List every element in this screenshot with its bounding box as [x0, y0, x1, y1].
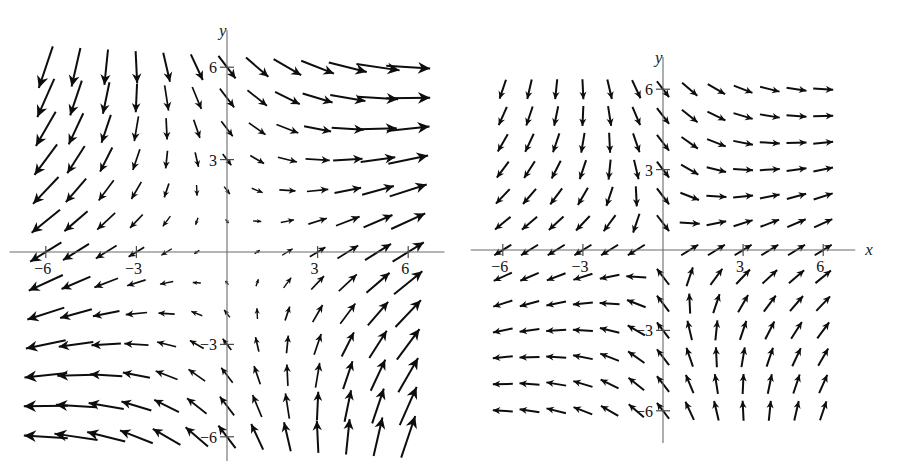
vector-arrow-head	[628, 351, 636, 358]
vector-arrow-head	[690, 141, 698, 148]
left-y-axis-label: y	[217, 21, 227, 40]
x-tick-label: −6	[34, 260, 51, 277]
vector-arrow-head	[347, 303, 355, 312]
x-tick-label: −3	[125, 260, 142, 277]
direction-field-left-panel: x y −6−33663−3−6	[0, 0, 453, 463]
x-tick-label: 3	[736, 258, 744, 275]
x-tick-label: −3	[571, 258, 588, 275]
y-tick-label: −6	[200, 429, 217, 446]
y-tick-label: −3	[636, 322, 653, 339]
direction-fields-figure: x y −6−33663−3−6 x y −6−33663−3−6	[0, 0, 906, 463]
vector-arrow-head	[99, 191, 107, 200]
y-tick-label: 3	[645, 162, 653, 179]
vector-arrow-head	[409, 329, 420, 341]
vector-arrow-head	[377, 331, 386, 342]
vector-arrow-head	[257, 127, 265, 134]
left-panel-canvas: x y −6−33663−3−6	[0, 0, 453, 463]
x-tick-label: 6	[816, 258, 824, 275]
x-tick-label: −6	[491, 258, 508, 275]
vector-arrow-head	[412, 242, 424, 252]
right-axes	[471, 57, 855, 443]
right-panel-canvas: x y −6−33663−3−6	[453, 0, 906, 463]
right-y-axis-label: y	[653, 48, 663, 67]
y-tick-label: −6	[636, 403, 653, 420]
vector-arrow-head	[188, 369, 196, 376]
direction-field-right-panel: x y −6−33663−3−6	[453, 0, 906, 463]
y-tick-label: 3	[209, 152, 217, 169]
x-tick-label: 6	[401, 260, 409, 277]
right-x-axis-label: x	[864, 240, 873, 259]
vector-arrow-head	[67, 162, 76, 173]
y-tick-label: 6	[209, 59, 217, 76]
y-tick-label: 6	[645, 81, 653, 98]
vector-arrow-head	[34, 163, 45, 175]
x-tick-label: 3	[311, 260, 319, 277]
vector-arrow-head	[163, 220, 169, 226]
left-axes	[10, 30, 445, 461]
y-tick-label: −3	[200, 336, 217, 353]
vector-arrow-head	[285, 278, 291, 284]
